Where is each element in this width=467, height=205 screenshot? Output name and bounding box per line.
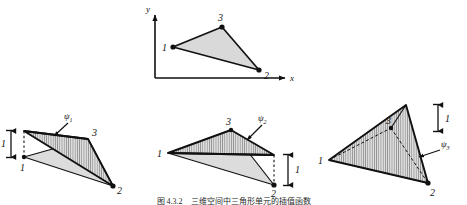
psi-1-label: ψ1 <box>64 111 73 123</box>
psi-3-label: ψ3 <box>441 139 450 151</box>
top-triangle <box>173 27 259 70</box>
psi-1-vertex-3-label: 3 <box>91 127 97 138</box>
psi-2-vertex-3-dot <box>229 128 233 132</box>
psi-3-leader <box>419 150 440 157</box>
psi-1-panel-group: 1 ψ1 1 2 3 <box>1 111 122 196</box>
psi-2-vertex-1-label: 1 <box>157 148 162 159</box>
psi-2-dimension-label: 1 <box>295 164 300 175</box>
psi-2-vertex-2-dot <box>271 182 276 187</box>
psi-3-dimension-label: 1 <box>445 113 450 124</box>
psi-2-leader <box>247 125 262 140</box>
top-panel-group: y x 1 2 3 <box>145 4 294 83</box>
psi-1-vertex-2-label: 2 <box>117 185 122 196</box>
psi-1-vertex-2-dot <box>110 183 115 188</box>
top-vertex-2-dot <box>256 67 261 72</box>
psi-1-leader <box>54 123 68 136</box>
psi-3-vertex-2-dot <box>425 180 430 185</box>
y-axis-label: y <box>145 4 150 14</box>
top-vertex-2-label: 2 <box>264 70 269 81</box>
psi-2-vertex-3-label: 3 <box>225 116 231 127</box>
psi-2-panel-group: 1 ψ2 1 2 3 <box>157 113 300 199</box>
figure-canvas: y x 1 2 3 1 ψ1 1 2 3 <box>0 0 467 205</box>
psi-3-surface <box>329 105 428 183</box>
x-axis-label: x <box>289 73 294 83</box>
figure-root: y x 1 2 3 1 ψ1 1 2 3 <box>0 0 467 205</box>
psi-2-surface <box>168 130 274 155</box>
psi-1-dimension-label: 1 <box>1 138 6 149</box>
top-vertex-3-dot <box>219 24 224 29</box>
psi-1-vertex-1-dot <box>22 155 26 159</box>
top-vertex-3-label: 3 <box>217 12 223 23</box>
top-vertex-1-label: 1 <box>162 42 167 53</box>
top-vertex-1-dot <box>170 44 175 49</box>
psi-3-panel-group: 1 ψ3 1 2 3 <box>318 105 450 199</box>
figure-caption: 图 4.3.2 三维空间中三角形单元的插值函数 <box>0 197 467 205</box>
psi-3-vertex-1-label: 1 <box>318 155 323 166</box>
psi-1-vertex-1-label: 1 <box>20 162 25 173</box>
psi-2-label: ψ2 <box>258 113 267 125</box>
psi-3-vertex-3-label: 3 <box>385 115 391 126</box>
psi-3-vertex-3-dot <box>389 126 393 130</box>
